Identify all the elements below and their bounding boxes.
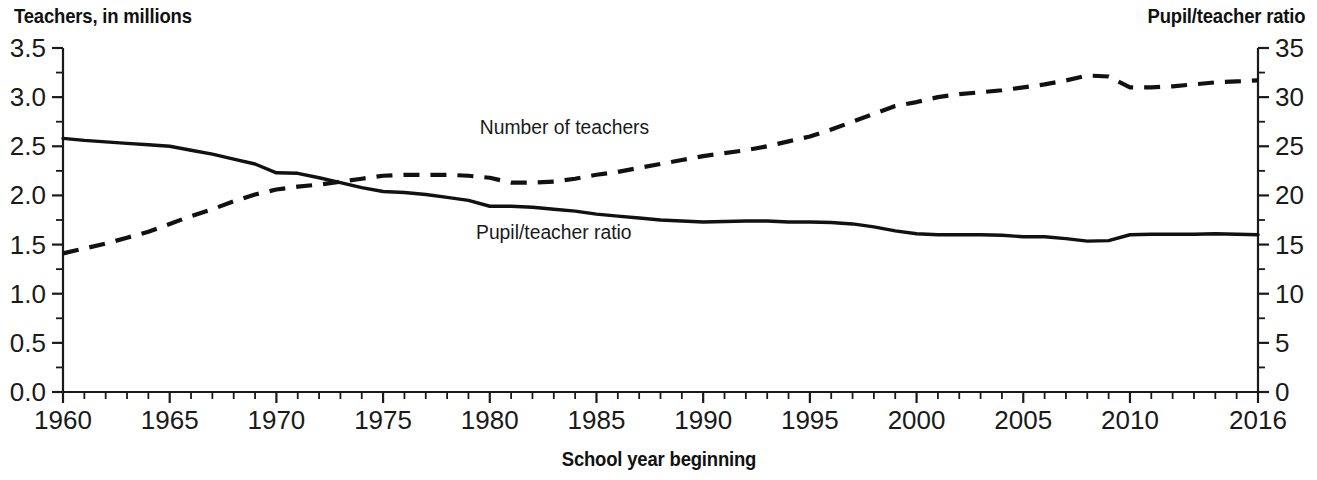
left-axis-tick-label: 3.5 xyxy=(10,33,46,63)
right-axis: 05101520253035 xyxy=(1258,33,1304,407)
x-axis-title: School year beginning xyxy=(561,447,755,471)
x-axis-tick-label: 2010 xyxy=(1101,405,1159,435)
left-axis-tick-label: 0.0 xyxy=(10,377,46,407)
right-axis-tick-label: 5 xyxy=(1275,328,1289,358)
series-annotations: Number of teachersPupil/teacher ratio xyxy=(476,116,649,243)
x-axis-tick-label: 2016 xyxy=(1229,405,1287,435)
x-axis-tick-label: 1980 xyxy=(461,405,519,435)
x-axis-tick-label: 1985 xyxy=(568,405,626,435)
series-line-pupil-teacher-ratio xyxy=(63,138,1258,241)
series-line-number-of-teachers xyxy=(63,76,1258,254)
right-axis-tick-label: 0 xyxy=(1275,377,1289,407)
x-axis-tick-label: 1990 xyxy=(674,405,732,435)
x-axis-tick-label: 1960 xyxy=(34,405,92,435)
left-axis-tick-label: 2.0 xyxy=(10,180,46,210)
x-axis-tick-label: 1965 xyxy=(141,405,199,435)
left-axis: 0.00.51.01.52.02.53.03.5 xyxy=(10,33,63,407)
right-axis-tick-label: 35 xyxy=(1275,33,1304,63)
right-axis-tick-label: 25 xyxy=(1275,131,1304,161)
x-axis-tick-label: 1975 xyxy=(354,405,412,435)
x-axis-tick-label: 1995 xyxy=(781,405,839,435)
right-axis-tick-label: 15 xyxy=(1275,230,1304,260)
x-axis-tick-label: 1970 xyxy=(247,405,305,435)
series-annotation-label: Pupil/teacher ratio xyxy=(476,220,632,243)
left-axis-tick-label: 2.5 xyxy=(10,131,46,161)
right-axis-tick-label: 30 xyxy=(1275,82,1304,112)
left-axis-tick-label: 1.0 xyxy=(10,279,46,309)
x-axis: 1960196519701975198019851990199520002005… xyxy=(34,392,1287,435)
series-annotation-label: Number of teachers xyxy=(480,116,649,139)
left-axis-tick-label: 1.5 xyxy=(10,230,46,260)
left-axis-tick-label: 3.0 xyxy=(10,82,46,112)
x-axis-tick-label: 2005 xyxy=(994,405,1052,435)
left-axis-tick-label: 0.5 xyxy=(10,328,46,358)
x-axis-tick-label: 2000 xyxy=(888,405,946,435)
right-axis-tick-label: 20 xyxy=(1275,180,1304,210)
series-group xyxy=(63,76,1258,254)
line-chart-plot: 0.00.51.01.52.02.53.03.5 05101520253035 … xyxy=(0,0,1317,480)
chart-container: Teachers, in millions Pupil/teacher rati… xyxy=(0,0,1317,480)
right-axis-tick-label: 10 xyxy=(1275,279,1304,309)
